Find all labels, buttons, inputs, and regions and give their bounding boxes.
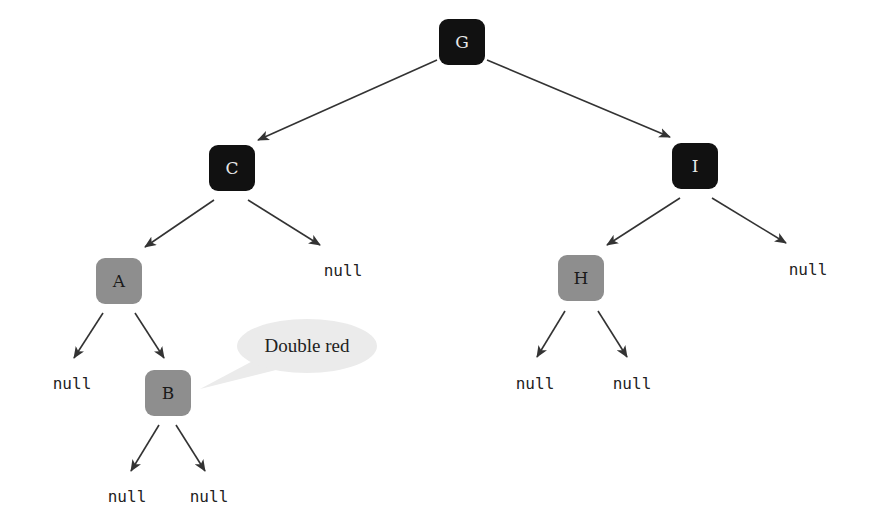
null-H-left: null [516, 374, 555, 393]
null-I-right: null [789, 260, 828, 279]
node-label: G [455, 32, 469, 52]
edge-b-to-null [176, 425, 205, 471]
node-label: B [162, 383, 175, 403]
edge-b-to-null [131, 425, 159, 471]
edge-i-to-h [607, 198, 680, 245]
null-C-right: null [324, 261, 363, 280]
tree-node-b: B [145, 370, 191, 416]
null-B-right: null [190, 487, 229, 506]
null-A-left: null [53, 374, 92, 393]
node-label: H [574, 268, 589, 288]
node-label: C [225, 158, 238, 178]
edge-g-to-c [258, 60, 437, 140]
node-label: A [113, 271, 125, 291]
null-B-left: null [108, 487, 147, 506]
tree-node-h: H [558, 255, 604, 301]
callout-text: Double red [265, 335, 350, 357]
edge-i-to-null [712, 198, 786, 243]
edge-a-to-null [74, 313, 103, 358]
tree-node-g: G [439, 19, 485, 65]
null-H-right: null [613, 374, 652, 393]
edge-h-to-null [598, 311, 627, 357]
tree-node-i: I [672, 143, 718, 189]
tree-node-a: A [96, 258, 142, 304]
edge-c-to-null [248, 200, 320, 245]
edge-g-to-i [487, 60, 670, 137]
edge-a-to-b [135, 313, 164, 358]
edge-h-to-null [537, 311, 565, 357]
tree-node-c: C [209, 145, 255, 191]
node-label: I [692, 156, 699, 176]
edge-c-to-a [145, 200, 214, 247]
